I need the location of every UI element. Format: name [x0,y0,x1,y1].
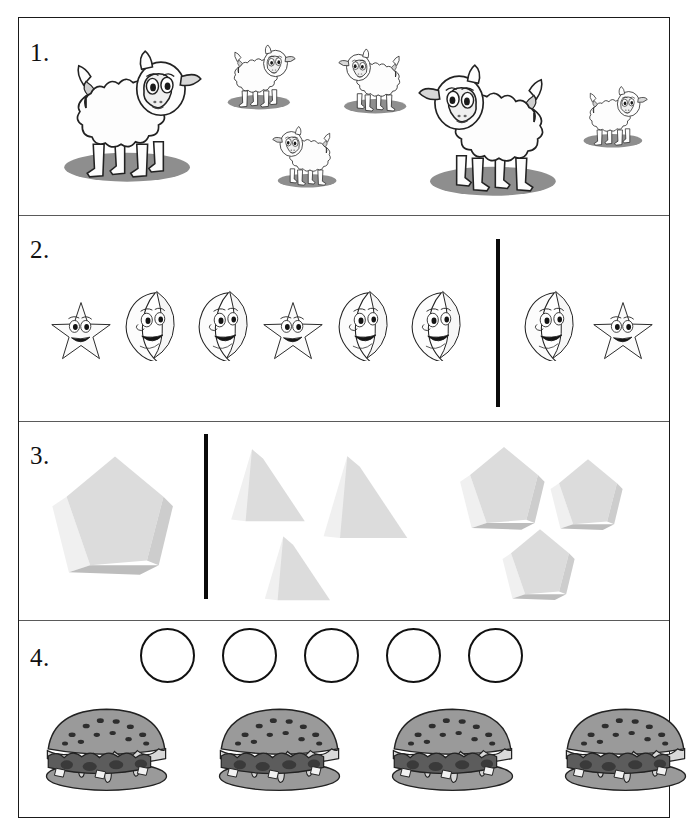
moon-icon-7 [516,289,578,365]
sheep-small-3 [338,40,410,118]
row-number-3: 3. [30,442,50,470]
hamburger-3 [386,703,519,797]
answer-circle-4[interactable] [386,628,441,683]
answer-circle-5[interactable] [468,628,523,683]
sheep-small-4 [272,118,340,192]
row-number-1: 1. [30,39,50,67]
moon-icon-3 [190,289,252,365]
triangular-prism-4 [262,530,340,612]
row-divider-1 [19,215,669,216]
answer-circle-2[interactable] [222,628,277,683]
worksheet-frame: 1. 2. 3. 4. [18,17,670,818]
sheep-large-1 [57,33,202,187]
row-divider-2 [19,421,669,422]
moon-icon-2 [117,289,179,365]
sheep-small-6 [580,78,648,152]
worksheet-page: 1. 2. 3. 4. [0,0,690,828]
star-icon-1 [50,300,112,364]
star-icon-4 [262,300,324,364]
moon-icon-6 [403,289,465,365]
sheep-small-2 [224,36,296,114]
sheep-large-5 [418,47,563,201]
row3-divider-bar [204,434,208,599]
answer-circle-3[interactable] [304,628,359,683]
row-number-4: 4. [30,644,50,672]
row2-divider-bar [496,239,500,407]
hamburger-1 [40,703,173,797]
pentagon-prism-1 [50,448,180,592]
triangular-prism-2 [228,442,316,534]
pentagon-prism-7 [500,525,580,611]
answer-circle-1[interactable] [140,628,195,683]
row-divider-3 [19,620,669,621]
hamburger-2 [213,703,346,797]
row-number-2: 2. [30,236,50,264]
hamburger-4 [559,703,690,797]
star-icon-8 [592,300,654,364]
moon-icon-5 [330,289,392,365]
